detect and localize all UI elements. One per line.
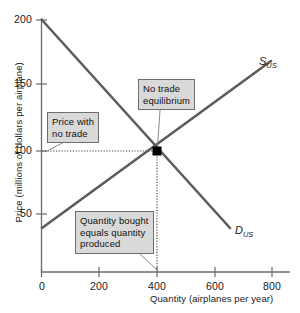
x-axis-title: Quantity (airplanes per year) [150, 293, 273, 304]
y-axis-title: Price (millions of dollars per airplane) [13, 63, 24, 223]
x-tick-label-200: 200 [84, 280, 114, 292]
supply-curve-label: SUS [259, 55, 277, 70]
y-tick-label-200: 200 [4, 13, 32, 25]
chart-plot-area [0, 0, 300, 313]
x-tick-label-400: 400 [142, 280, 172, 292]
x-tick-label-800: 800 [257, 280, 287, 292]
supply-demand-chart: 200 150 100 50 0 200 400 600 800 Price (… [0, 0, 300, 313]
annotation-no-trade-equilibrium: No trade equilibrium [138, 79, 195, 110]
equilibrium-marker [153, 147, 162, 156]
leader-line-quantity-bought [138, 252, 157, 270]
annotation-price-with-no-trade: Price with no trade [47, 112, 99, 143]
demand-curve-label: DUS [235, 224, 253, 239]
supply-curve-label-subscript: US [266, 61, 276, 70]
x-tick-label-0: 0 [27, 280, 57, 292]
demand-curve-label-letter: D [235, 224, 243, 236]
demand-curve-label-subscript: US [243, 230, 253, 239]
x-tick-label-600: 600 [200, 280, 230, 292]
annotation-quantity-bought-equals-quantity-produced: Quantity bought equals quantity produced [75, 211, 154, 254]
